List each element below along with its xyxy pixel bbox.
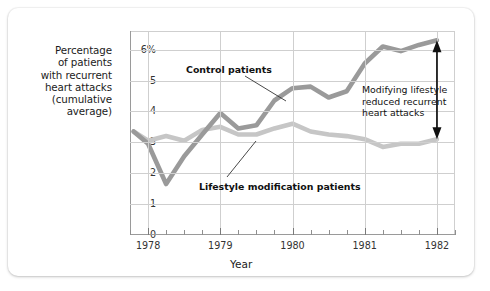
- annotation-overlay: [0, 0, 490, 291]
- annotation-gap-callout-line-3: heart attacks: [362, 107, 454, 119]
- annotation-control-patients: Control patients: [186, 64, 272, 75]
- leader-line-control-patients: [245, 76, 286, 101]
- annotation-lifestyle-modification-patients: Lifestyle modification patients: [199, 181, 361, 192]
- chart-figure: Percentage of patients with recurrent he…: [0, 0, 490, 291]
- annotation-gap-callout-line-1: Modifying lifestyle: [362, 84, 454, 96]
- annotation-gap-callout-line-2: reduced recurrent: [362, 96, 454, 108]
- leader-line-lifestyle-modification-patients: [227, 141, 256, 177]
- annotation-gap-callout: Modifying lifestyle reduced recurrent he…: [362, 84, 454, 119]
